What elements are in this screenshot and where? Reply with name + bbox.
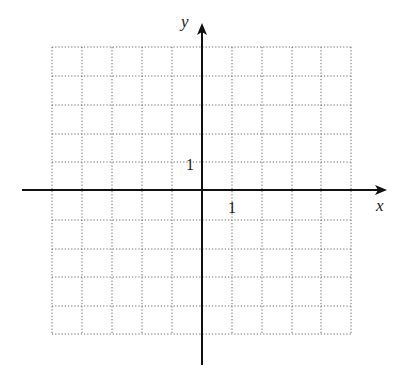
- y-tick-label-1: 1: [186, 156, 194, 173]
- x-tick-label-1: 1: [228, 199, 236, 216]
- y-axis: [197, 23, 207, 365]
- y-axis-label: y: [179, 12, 189, 31]
- coordinate-plane: x y 1 1: [0, 0, 414, 372]
- x-axis: [22, 185, 387, 195]
- x-axis-label: x: [375, 196, 384, 215]
